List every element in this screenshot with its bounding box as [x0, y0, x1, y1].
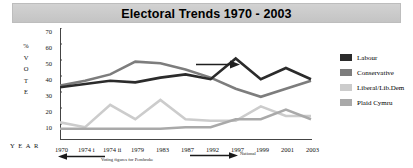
y-axis-title: % V O T E: [20, 40, 32, 98]
legend-item-liberal: Liberal/Lib.Dem: [340, 80, 412, 95]
y-tick-label-50: 50: [38, 60, 52, 67]
legend-label-conservative: Conservative: [357, 69, 394, 77]
y-axis-title-char-3: T: [20, 75, 32, 87]
legend-item-labour: Labour: [340, 50, 412, 65]
y-axis-title-char-1: V: [20, 52, 32, 64]
series-line-labour: [60, 58, 311, 87]
legend-item-plaid-cymru: Plaid Cymru: [340, 95, 412, 110]
page-title: Electoral Trends 1970 - 2003: [13, 4, 400, 24]
legend-swatch-liberal: [340, 84, 352, 91]
x-tick-label-0: 1970: [55, 146, 68, 153]
x-tick-label-3: 1979: [131, 146, 144, 153]
national-note: National: [240, 151, 256, 156]
legend-label-plaid-cymru: Plaid Cymru: [357, 99, 393, 107]
y-tick-label-40: 40: [38, 76, 52, 83]
series-line-conservative: [60, 62, 311, 97]
y-axis-title-char-2: O: [20, 63, 32, 75]
electoral-trends-chart: Electoral Trends 1970 - 2003 % V O T E Y…: [0, 0, 413, 168]
x-tick-label-4: 1983: [156, 146, 169, 153]
y-axis-title-char-0: %: [20, 40, 32, 52]
plot-area: [60, 28, 312, 140]
x-tick-label-1: 1974 i: [78, 146, 94, 153]
x-tick-label-10: 2003: [306, 146, 319, 153]
y-axis-title-char-4: E: [20, 86, 32, 98]
legend-swatch-plaid-cymru: [340, 99, 352, 106]
y-tick-label-20: 20: [38, 108, 52, 115]
x-axis-title: Y E A R: [10, 142, 39, 149]
legend-item-conservative: Conservative: [340, 65, 412, 80]
national-arrow: [190, 152, 238, 159]
legend-swatch-conservative: [340, 69, 352, 76]
legend-label-liberal: Liberal/Lib.Dem: [357, 84, 404, 92]
y-tick-label-30: 30: [38, 92, 52, 99]
pembroke-note: Voting figures for Pembroke: [101, 157, 153, 162]
chart-title-bar: Electoral Trends 1970 - 2003: [12, 3, 401, 23]
pembroke-arrow: [58, 153, 106, 160]
legend-swatch-labour: [340, 54, 352, 61]
y-tick-label-70: 70: [38, 28, 52, 35]
series-layer: [60, 58, 311, 128]
x-tick-label-9: 2001: [281, 146, 294, 153]
legend-label-labour: Labour: [357, 54, 377, 62]
plot-svg: [60, 28, 312, 140]
y-tick-label-10: 10: [38, 124, 52, 131]
axis-layer: [60, 28, 312, 140]
peak-pointer-arrow: [196, 60, 240, 69]
x-tick-label-8: 1999: [256, 146, 269, 153]
legend: Labour Conservative Liberal/Lib.Dem Plai…: [340, 50, 412, 110]
x-tick-label-2: 1974 ii: [103, 146, 121, 153]
y-tick-label-60: 60: [38, 44, 52, 51]
